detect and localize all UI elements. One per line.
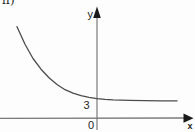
function-graph-figure: п) y x 3 0 — [0, 0, 195, 132]
y-axis-label: y — [88, 8, 94, 20]
x-axis-label: x — [187, 121, 192, 131]
y-axis-arrow-icon — [93, 7, 101, 19]
origin-label: 0 — [88, 119, 94, 131]
graph-canvas: y x 3 0 — [0, 0, 195, 132]
asymptote-tick-label: 3 — [83, 99, 89, 111]
